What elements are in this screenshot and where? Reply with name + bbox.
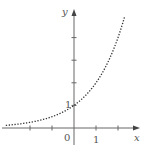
x-axis-arrow-icon (133, 126, 140, 131)
x-axis-label: x (134, 132, 140, 143)
exponential-graph: y x 0 1 1 (0, 0, 147, 159)
y-axis-label: y (61, 6, 68, 17)
y-tick-label-1: 1 (65, 99, 71, 110)
y-axis-arrow-icon (72, 9, 77, 16)
x-tick-label-1: 1 (93, 134, 99, 145)
axes (2, 9, 140, 145)
origin-label: 0 (64, 132, 70, 143)
